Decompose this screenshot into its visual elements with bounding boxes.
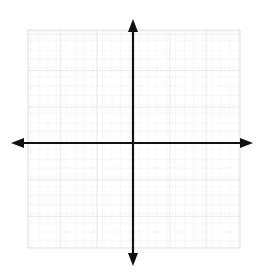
coordinate-plane-svg xyxy=(0,0,263,276)
coordinate-plane-figure: Blank Cartesian coordinate plane with fa… xyxy=(0,0,263,276)
